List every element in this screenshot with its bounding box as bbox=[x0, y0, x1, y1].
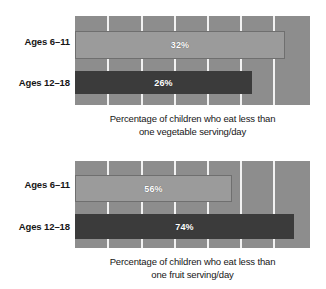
bar-value-label: 56% bbox=[144, 184, 162, 194]
category-label-ages-12-18: Ages 12–18 bbox=[4, 77, 70, 88]
bar-value-label: 26% bbox=[154, 78, 172, 88]
fruit-chart-caption: Percentage of children who eat less than… bbox=[75, 256, 310, 281]
vegetable-plot-area: 32% 26% bbox=[75, 16, 310, 105]
caption-line-1: Percentage of children who eat less than bbox=[75, 113, 310, 126]
bar-fruit-ages-6-11: 56% bbox=[75, 175, 232, 202]
bar-vegetable-ages-6-11: 32% bbox=[75, 31, 285, 59]
vegetable-chart-caption: Percentage of children who eat less than… bbox=[75, 113, 310, 138]
bar-value-label: 32% bbox=[171, 40, 189, 50]
category-label-ages-12-18: Ages 12–18 bbox=[4, 221, 70, 232]
bar-fruit-ages-12-18: 74% bbox=[75, 214, 294, 239]
fruit-chart: 56% 74% Ages 6–11 Ages 12–18 Percentage … bbox=[0, 145, 326, 289]
category-label-ages-6-11: Ages 6–11 bbox=[4, 179, 70, 190]
bar-vegetable-ages-12-18: 26% bbox=[75, 71, 252, 94]
fruit-plot-area: 56% 74% bbox=[75, 161, 310, 248]
caption-line-2: one fruit serving/day bbox=[75, 269, 310, 282]
vegetable-chart: 32% 26% Ages 6–11 Ages 12–18 Percentage … bbox=[0, 0, 326, 145]
bar-value-label: 74% bbox=[175, 222, 193, 232]
gridline bbox=[273, 16, 275, 105]
caption-line-1: Percentage of children who eat less than bbox=[75, 256, 310, 269]
category-label-ages-6-11: Ages 6–11 bbox=[4, 36, 70, 47]
caption-line-2: one vegetable serving/day bbox=[75, 126, 310, 139]
